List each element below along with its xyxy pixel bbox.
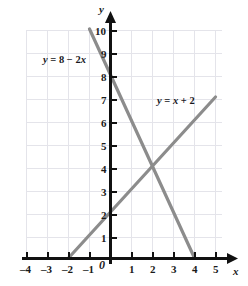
x-tick-label--3: –3 — [41, 264, 52, 275]
y-tick-label-8: 8 — [101, 72, 107, 83]
origin-label: 0 — [99, 259, 105, 271]
x-tick-label--4: –4 — [20, 264, 31, 275]
y-axis-arrowhead — [105, 11, 116, 23]
x-tick-label-1: 1 — [129, 264, 135, 275]
x-tick-label-5: 5 — [213, 264, 219, 275]
eq-right-eq: = — [162, 95, 173, 106]
y-tick-label-5: 5 — [101, 141, 107, 152]
y-tick-label-7: 7 — [101, 95, 107, 106]
x-axis-arrowhead — [227, 253, 238, 264]
x-axis-ticks — [27, 252, 216, 258]
x-tick-label-4: 4 — [192, 264, 198, 275]
equation-label-y-equals-8-minus-2x: y = 8 − 2x — [43, 55, 86, 66]
x-tick-label-2: 2 — [150, 264, 156, 275]
x-tick-label-3: 3 — [171, 264, 177, 275]
equation-label-y-equals-x-plus-2: y = x + 2 — [157, 96, 195, 107]
x-tick-label--1: –1 — [83, 264, 94, 275]
y-tick-label-2: 2 — [101, 210, 107, 221]
y-tick-label-10: 10 — [95, 26, 106, 37]
eq-left-body: = 8 − 2 — [48, 54, 81, 65]
y-tick-label-9: 9 — [101, 49, 107, 60]
y-axis-label: y — [99, 4, 104, 15]
y-tick-label-3: 3 — [101, 187, 107, 198]
y-tick-label-4: 4 — [101, 164, 107, 175]
line-y-equals-x-plus-2 — [69, 97, 216, 258]
y-tick-label-6: 6 — [101, 118, 107, 129]
eq-left-x: x — [81, 54, 86, 65]
graph-figure: y x 0 –4 –3 –2 –1 1 2 3 4 5 1 2 3 4 5 6 … — [0, 0, 248, 286]
x-tick-label--2: –2 — [62, 264, 73, 275]
x-axis-label: x — [233, 266, 239, 277]
eq-right-plus2: + 2 — [178, 95, 194, 106]
coordinate-plane-svg — [0, 0, 248, 286]
y-tick-label-1: 1 — [101, 233, 107, 244]
